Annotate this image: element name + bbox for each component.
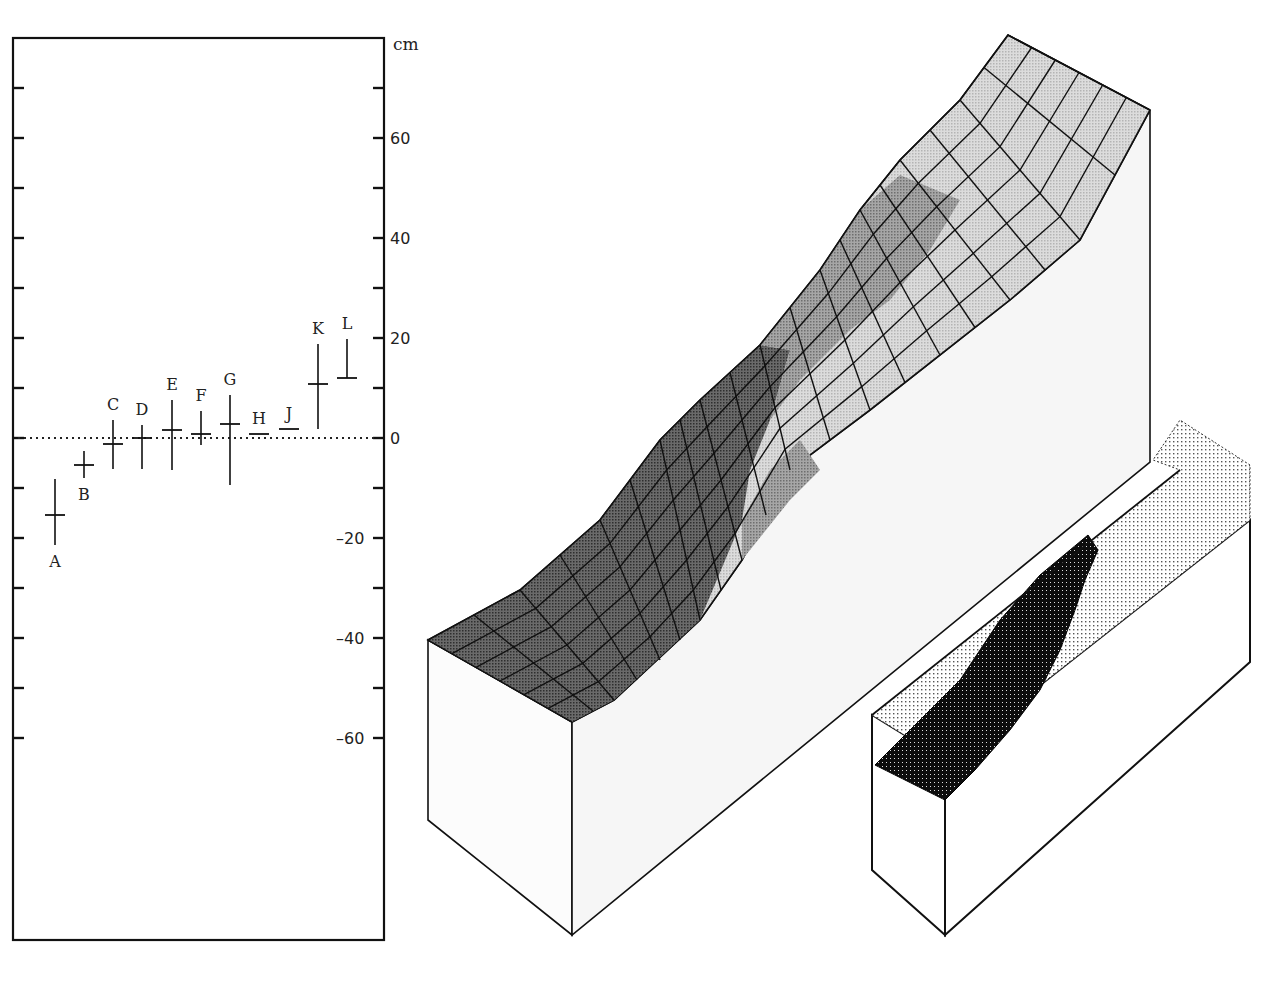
point-label: G [224,370,237,389]
point-label: J [284,404,292,423]
y-tick-label: –20 [336,529,364,548]
point-label: H [252,409,266,428]
chart-frame [13,38,384,940]
point-label: F [195,386,206,405]
point-label: E [166,375,178,394]
data-point-f: F [191,386,211,445]
data-point-c: C [103,395,123,469]
data-point-b: B [74,451,94,504]
y-tick-label: 0 [390,429,400,448]
data-point-d: D [132,400,152,469]
data-point-j: J [279,404,299,429]
left-axis-ticks [13,88,24,738]
displacement-chart: 6040200–20–40–60 cm ABCDEFGHJKL [13,34,419,940]
point-label: D [136,400,149,419]
point-label: L [342,314,353,333]
y-tick-label: 40 [390,229,410,248]
y-axis-unit-label: cm [393,34,419,54]
data-point-a: A [45,479,65,571]
point-label: B [78,485,90,504]
y-tick-label: –40 [336,629,364,648]
data-point-k: K [308,319,328,429]
data-point-l: L [337,314,357,378]
figure-canvas: 6040200–20–40–60 cm ABCDEFGHJKL [0,0,1273,982]
point-label: K [312,319,325,338]
data-point-h: H [249,409,269,434]
y-tick-label: –60 [336,729,364,748]
data-point-g: G [220,370,240,485]
data-points: ABCDEFGHJKL [45,314,357,571]
point-label: C [107,395,119,414]
y-tick-label: 60 [390,129,410,148]
point-label: A [48,552,61,571]
data-point-e: E [162,375,182,470]
y-tick-label: 20 [390,329,410,348]
right-axis-ticks [373,88,384,738]
